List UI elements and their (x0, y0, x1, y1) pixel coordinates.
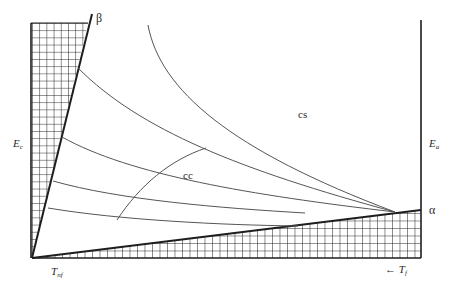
curve-4 (48, 208, 298, 226)
left-arrow-icon: ← (385, 263, 396, 275)
cs-region-label: cs (298, 109, 307, 120)
ea-axis-label: Ea (429, 138, 439, 151)
ea-label-main: E (429, 137, 436, 149)
tf-axis-label: ← Tf (385, 264, 407, 277)
alpha-label: α (429, 204, 435, 216)
phase-diagram (0, 0, 453, 289)
cc-region-label: cc (183, 170, 193, 181)
left-hatched-region (31, 23, 88, 258)
ec-axis-label: Ec (13, 138, 23, 151)
ec-label-sub: c (20, 143, 23, 151)
ea-label-sub: a (436, 143, 440, 151)
cs-boundary-curve (148, 25, 395, 212)
tf-label-sub: f (405, 269, 407, 277)
curve-2 (62, 137, 395, 212)
tnf-axis-label: Tnf (51, 266, 63, 279)
curve-1 (78, 68, 395, 212)
beta-label: β (96, 12, 102, 24)
cc-boundary-curve (117, 148, 206, 220)
curve-3 (53, 181, 305, 213)
ec-label-main: E (13, 137, 20, 149)
tnf-label-sub: nf (57, 271, 62, 279)
